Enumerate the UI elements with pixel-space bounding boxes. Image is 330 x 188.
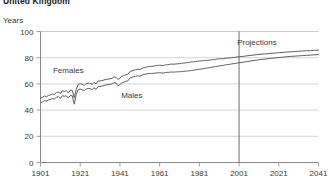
x-tick-label-1981: 1981 [190, 169, 208, 178]
y-tick-label-100: 100 [20, 28, 34, 37]
x-tick-label-2041: 2041 [310, 169, 328, 178]
y-tick-label-40: 40 [25, 106, 34, 115]
y-tick-label-60: 60 [25, 80, 34, 89]
chart-plot-area: 020406080100 190119211941196119812001202… [0, 0, 330, 188]
annotation-females: Females [53, 66, 84, 75]
x-tick-label-2001: 2001 [230, 169, 248, 178]
x-tick-label-1961: 1961 [151, 169, 169, 178]
series-line-males [41, 55, 319, 105]
y-tick-label-0: 0 [29, 159, 34, 168]
axes-group [41, 32, 319, 163]
y-tick-label-80: 80 [25, 54, 34, 63]
x-tick-label-2021: 2021 [270, 169, 288, 178]
series-annotations-group: FemalesMalesProjections [53, 38, 277, 101]
annotation-males: Males [121, 91, 142, 100]
data-series-group [41, 50, 319, 104]
chart-container: United Kingdom Years 020406080100 190119… [0, 0, 330, 188]
x-tick-label-1941: 1941 [111, 169, 129, 178]
x-tick-label-1901: 1901 [32, 169, 50, 178]
x-axis-ticks-group: 19011921194119611981200120212041 [32, 163, 328, 178]
y-tick-label-20: 20 [25, 132, 34, 141]
annotation-projections: Projections [237, 38, 277, 47]
x-tick-label-1921: 1921 [71, 169, 89, 178]
y-axis-ticks-group: 020406080100 [20, 28, 40, 168]
